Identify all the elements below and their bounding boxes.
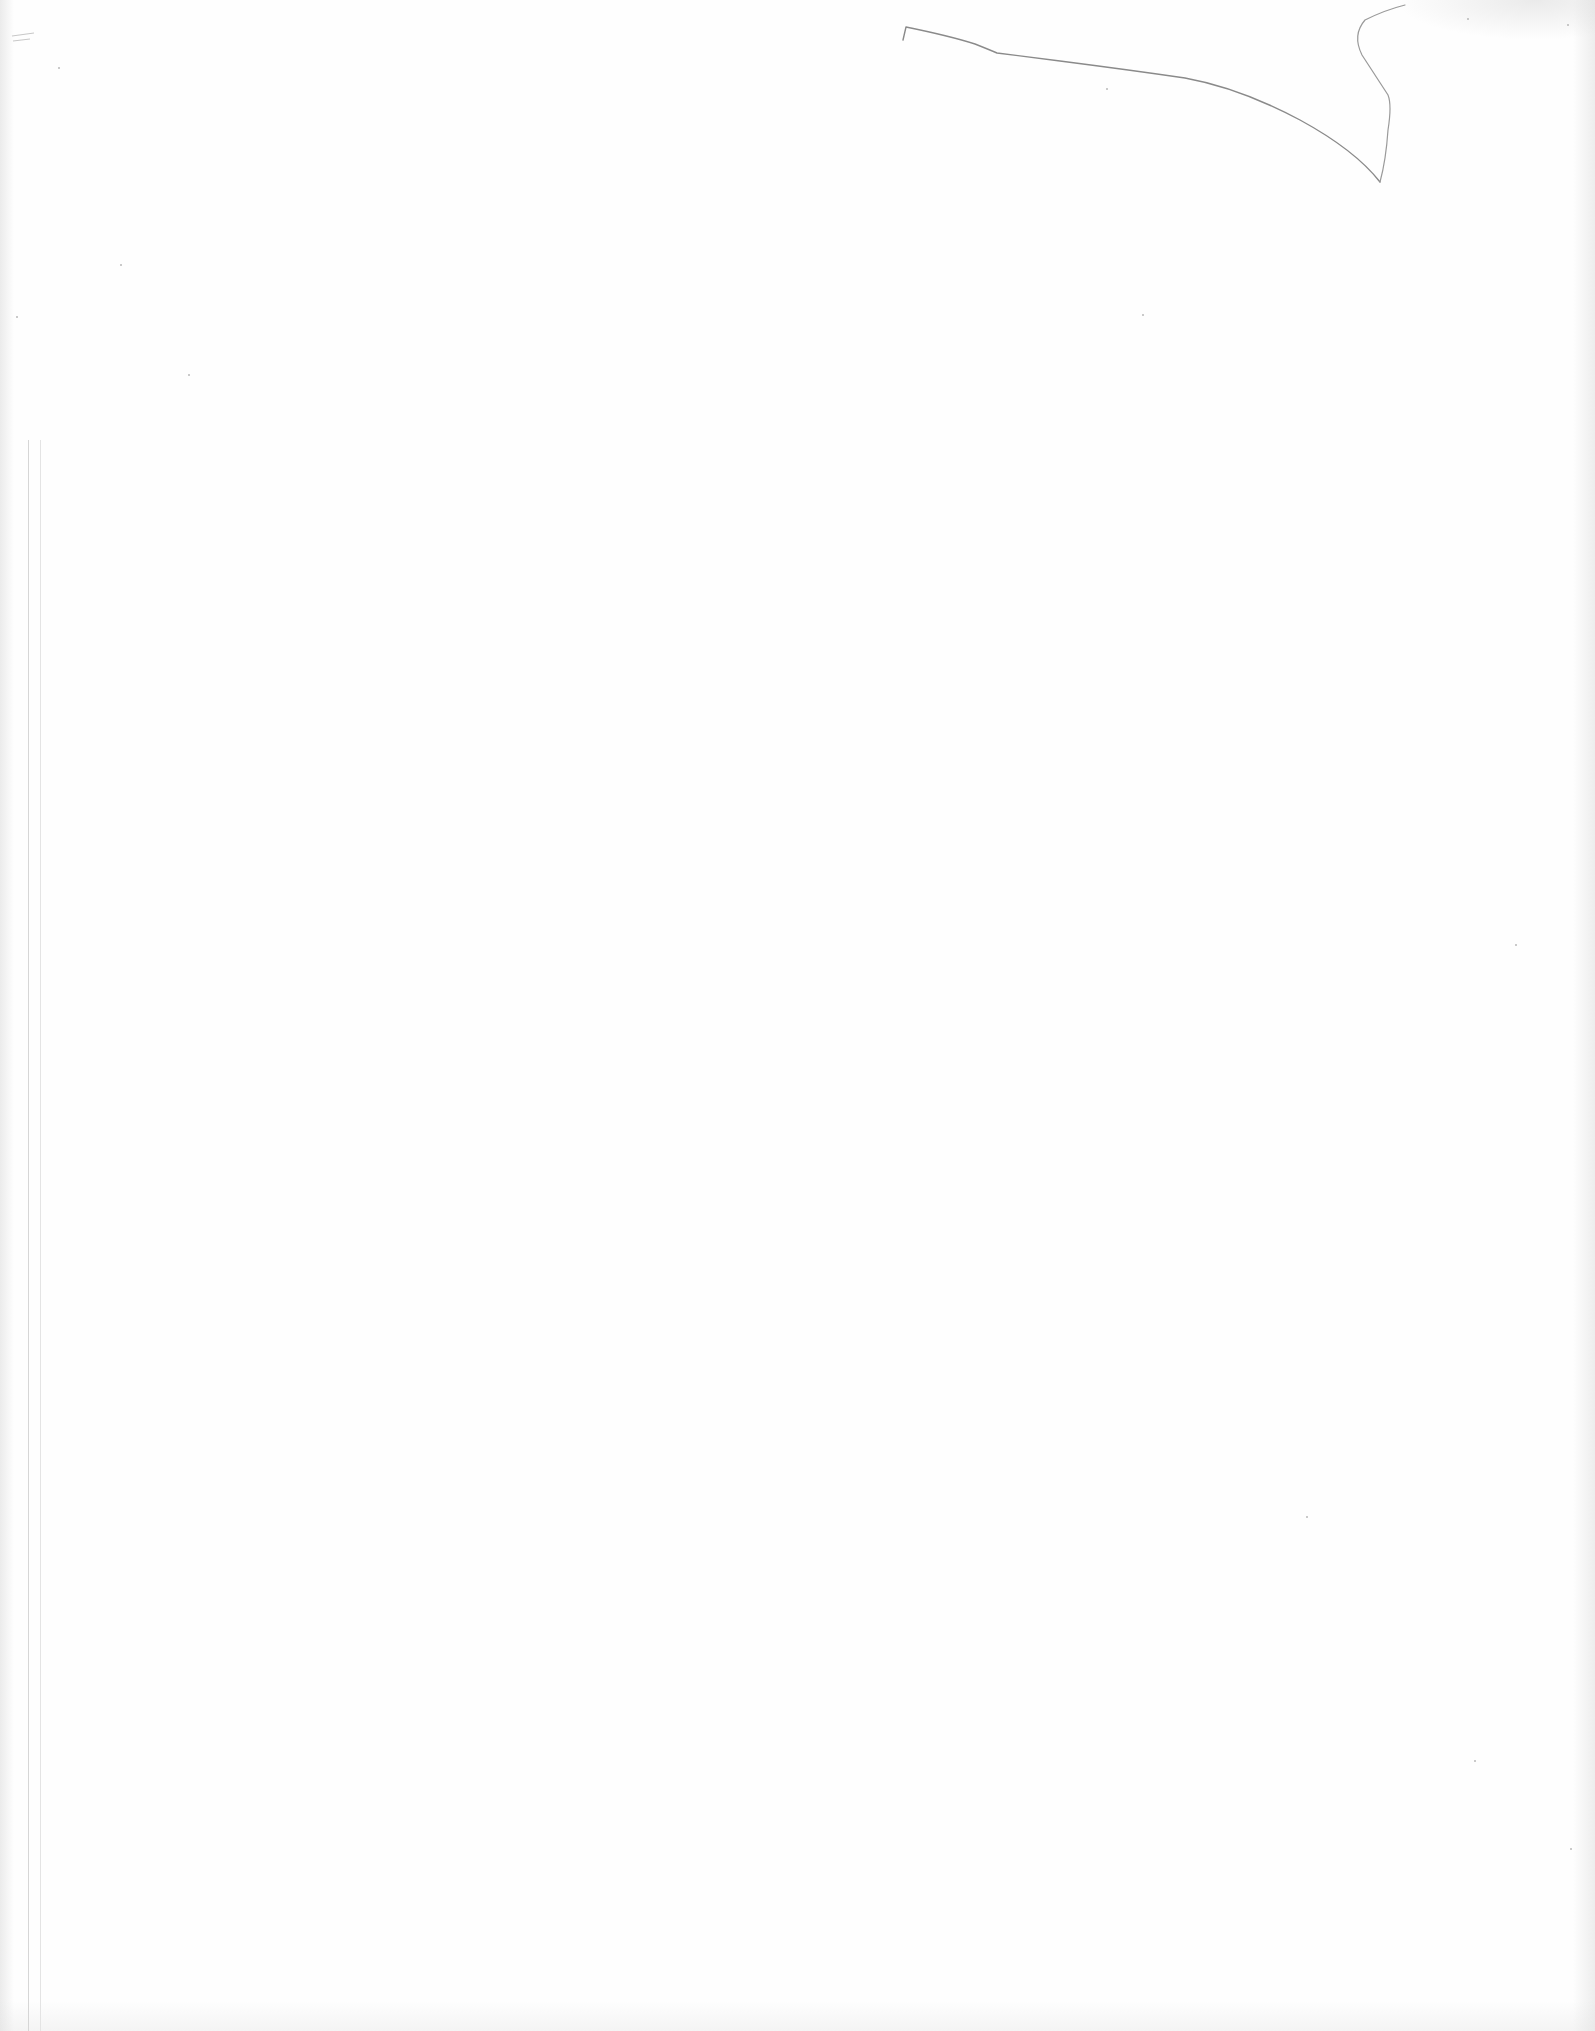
- scan-speck: [1106, 88, 1108, 90]
- scan-speck: [1467, 18, 1469, 20]
- scan-speck: [16, 316, 18, 318]
- left-edge-scan-shadow: [0, 0, 14, 2031]
- scan-speck: [1515, 944, 1517, 946]
- scan-speck: [1567, 24, 1569, 26]
- pencil-stroke: [0, 0, 1595, 2031]
- scan-speck: [1570, 1848, 1572, 1850]
- right-edge-scan-shadow: [1573, 0, 1595, 2031]
- bottom-edge-smudge: [0, 2001, 1595, 2031]
- scan-speck: [58, 67, 60, 69]
- scan-speck: [1474, 1760, 1476, 1762]
- left-margin-line-secondary: [40, 440, 41, 2031]
- left-margin-line: [28, 440, 29, 2031]
- scanned-page: [0, 0, 1595, 2031]
- scan-speck: [1306, 1516, 1308, 1518]
- scan-speck: [120, 264, 122, 266]
- scan-speck: [1142, 314, 1144, 316]
- top-right-smudge: [1395, 0, 1595, 40]
- scan-speck: [188, 374, 190, 376]
